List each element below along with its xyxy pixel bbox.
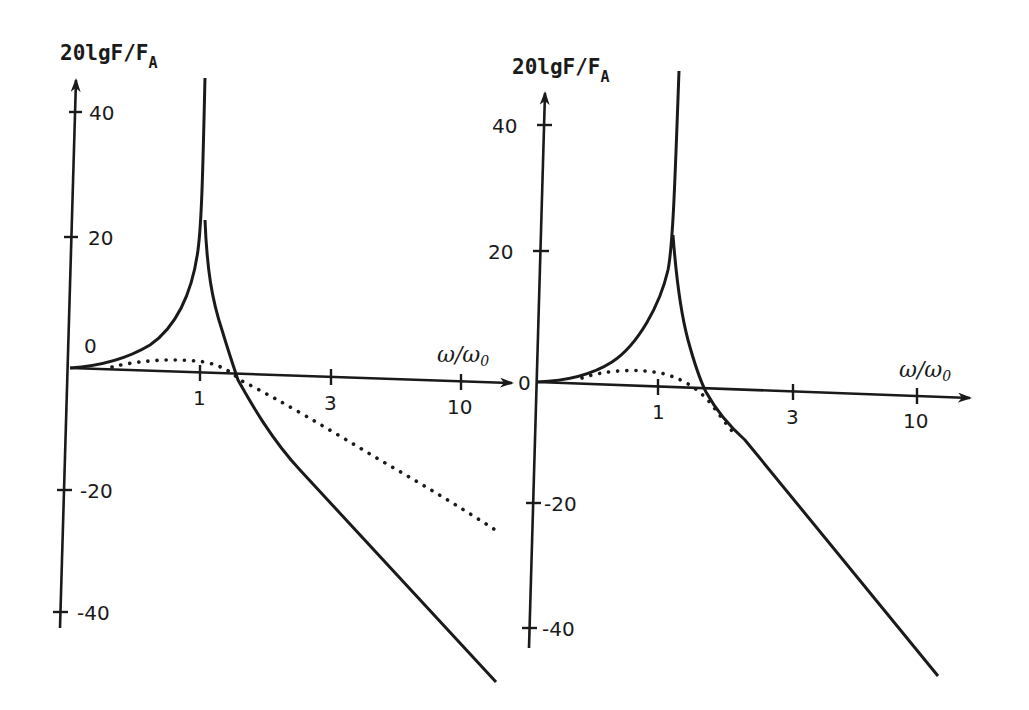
left-y-tick-label-40: 40	[89, 101, 114, 125]
right-x-axis-title: ω/ω0	[899, 357, 951, 384]
left-y-tick-label-neg40: -40	[77, 601, 110, 625]
right-x-tick-label-10: 10	[903, 409, 928, 433]
left-x-tick-label-10: 10	[447, 395, 472, 419]
right-y-tick-label-20: 20	[488, 240, 513, 264]
left-x-tick-label-1: 1	[193, 386, 206, 410]
left-y-tick-label-0: 0	[84, 334, 97, 358]
right-y-tick-label-neg40: -40	[542, 617, 575, 641]
right-y-tick-label-0: 0	[518, 371, 531, 395]
left-y-axis-title: 20lgF/FA	[60, 41, 158, 72]
left-x-axis	[70, 368, 512, 383]
right-y-axis	[529, 93, 545, 648]
left-x-tick-label-3: 3	[324, 391, 337, 415]
left-y-axis	[60, 80, 76, 628]
left-x-axis-title: ω/ω0	[437, 342, 489, 369]
right-x-tick-label-3: 3	[786, 405, 799, 429]
right-panel: 40 20 0 -20 -40 1 3 10 20lgF/FA ω/ω0	[488, 55, 970, 676]
right-y-tick-label-neg20: -20	[544, 492, 577, 516]
left-y-tick-label-20: 20	[88, 226, 113, 250]
left-panel: 40 20 0 -20 -40 1 3 10 20lgF/FA ω/ω0	[53, 41, 512, 682]
left-y-tick-label-neg20: -20	[80, 479, 113, 503]
right-y-tick-label-40: 40	[492, 114, 517, 138]
left-dotted-curve	[112, 360, 497, 531]
right-x-axis	[537, 382, 970, 398]
right-y-axis-title: 20lgF/FA	[512, 55, 610, 86]
bode-magnitude-figure: 40 20 0 -20 -40 1 3 10 20lgF/FA ω/ω0	[0, 0, 1029, 710]
right-solid-curve	[537, 71, 938, 676]
left-x-ticks	[200, 365, 461, 390]
right-x-tick-label-1: 1	[652, 400, 665, 424]
